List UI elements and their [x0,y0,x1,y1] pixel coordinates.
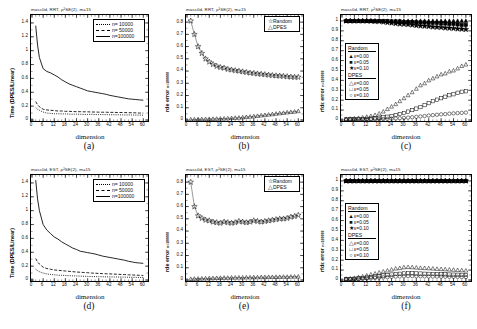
y-tick-label: 1 [16,47,28,52]
legend-group-heading: DPES [348,72,376,79]
legend-item-label: ε=0.00 [354,53,369,59]
y-tick-label: 0.8 [326,197,338,202]
panel-f-title: mass0d, EST, ρ²SE(2), m=15 [341,167,401,172]
panel-e-title: mass0d, EST, ρ²SE(2), m=15 [186,167,246,172]
legend-item[interactable]: ○ε=0.10 [348,92,376,98]
legend-item-label: Random [273,18,292,24]
panel-e-legend[interactable]: ☆Random△DPES [264,176,300,192]
legend-item[interactable]: n=100000 [96,33,142,39]
y-tick-label: 0.6 [326,217,338,222]
y-tick-label: 0.3 [171,80,183,85]
panel-c-title: mass0d, RRT, ρ²SE(2), m=15 [341,7,401,12]
legend-item-label: DPES [273,184,287,190]
x-tick-label: 60 [457,122,473,127]
y-tick-label: 0.8 [171,179,183,184]
y-tick-label: 0 [16,276,28,281]
legend-line-swatch [96,30,110,31]
panel-d-caption: (d) [59,301,119,311]
y-tick-label: 0.7 [171,31,183,36]
panel-d-ylabel: Time (DPES/Linear) [9,228,15,278]
legend-item-label: DPES [273,24,287,30]
legend-line-swatch [96,190,110,191]
y-tick-label: 0.5 [171,215,183,220]
panel-a-legend[interactable]: n= 10000n= 50000n=100000 [93,19,145,42]
y-tick-label: 0.4 [326,77,338,82]
y-tick-label: 0.6 [171,203,183,208]
y-tick-label: 0.7 [171,191,183,196]
legend-item[interactable]: ○ε=0.10 [348,252,376,258]
y-tick-label: 0.2 [326,257,338,262]
legend-item[interactable]: △DPES [267,24,297,30]
y-tick-label: 0.3 [326,247,338,252]
y-tick-label: 1 [326,17,338,22]
y-tick-label: 0.7 [326,47,338,52]
y-tick-label: 1.2 [16,193,28,198]
y-tick-label: 0.7 [326,207,338,212]
x-tick-label: 60 [289,282,305,287]
legend-item-label: Random [273,178,292,184]
legend-item[interactable]: △DPES [267,184,297,190]
panel-b-title: mass0d, RRT, ρ²SE(2), m=15 [186,7,246,12]
legend-group-heading: DPES [348,232,376,239]
y-tick-label: 0.6 [171,43,183,48]
y-tick-label: 0.4 [171,67,183,72]
y-tick-label: 0.8 [326,37,338,42]
legend-group-heading: Random [348,45,376,52]
panel-b-ylabel: rde error n=100000 [164,72,170,112]
panel-d-legend[interactable]: n= 10000n= 50000n=100000 [93,179,145,202]
legend-item-label: n=100000 [112,193,134,199]
legend-line-swatch [96,184,110,185]
y-tick-label: 0.2 [171,252,183,257]
panel-c-legend[interactable]: Random▲ε=0.00■ε=0.05★ε=0.10DPES△ε=0.00□ε… [345,43,379,100]
legend-line-swatch [96,36,110,37]
panel-f-caption: (f) [376,301,436,311]
figure-sheet: mass0d, RRT, ρ²SE(2), m=15 Time (DPES/Li… [0,0,477,329]
legend-item-label: ε=0.00 [354,240,369,246]
panel-c-xlabel: dimension [366,133,446,141]
y-tick-label: 0.5 [326,227,338,232]
legend-item-label: ε=0.00 [354,213,369,219]
panel-b-caption: (b) [214,141,274,151]
y-tick-label: 1.4 [16,179,28,184]
panel-a-caption: (a) [59,141,119,151]
panel-b-legend[interactable]: ☆Random△DPES [264,16,300,32]
x-tick-label: 60 [134,282,150,287]
y-tick-label: 0.2 [16,103,28,108]
legend-item-label: ε=0.10 [354,252,369,258]
legend-item-label: n= 10000 [112,21,133,27]
legend-item-label: ε=0.10 [354,92,369,98]
legend-item-label: ε=0.05 [354,246,369,252]
y-tick-label: 0.2 [16,263,28,268]
panel-a-xlabel: dimension [50,133,130,141]
y-tick-label: 0 [171,116,183,121]
legend-item-label: n= 50000 [112,27,133,33]
y-tick-label: 0.9 [326,27,338,32]
panel-c-ylabel: rfdε error n=100000 [319,70,325,112]
y-tick-label: 0.4 [326,237,338,242]
legend-group-heading: Random [348,205,376,212]
y-tick-label: 0.9 [326,187,338,192]
panel-f-ylabel: rfdε error n=100000 [319,230,325,272]
y-tick-label: 0 [16,116,28,121]
y-tick-label: 0.8 [16,61,28,66]
y-tick-label: 0 [171,276,183,281]
legend-item-label: ε=0.00 [354,80,369,86]
panel-f-legend[interactable]: Random▲ε=0.00■ε=0.05★ε=0.10DPES△ε=0.00□ε… [345,203,379,260]
legend-item-label: ε=0.05 [354,219,369,225]
legend-item-label: n= 10000 [112,181,133,187]
y-tick-label: 1 [326,177,338,182]
legend-item[interactable]: n=100000 [96,193,142,199]
panel-a-ylabel: Time (DPES/Linear) [9,68,15,118]
panel-a-title: mass0d, RRT, ρ²SE(2), m=15 [31,7,91,12]
y-tick-label: 0 [326,276,338,281]
y-tick-label: 0.2 [326,97,338,102]
panel-c-caption: (c) [376,141,436,151]
y-tick-label: 0.5 [326,67,338,72]
panel-e-caption: (e) [214,301,274,311]
legend-item-label: ε=0.10 [354,65,369,71]
legend-item-label: ε=0.10 [354,225,369,231]
y-tick-label: 0.4 [16,89,28,94]
legend-item-label: n=100000 [112,33,134,39]
legend-item-label: n= 50000 [112,187,133,193]
x-tick-label: 60 [289,122,305,127]
